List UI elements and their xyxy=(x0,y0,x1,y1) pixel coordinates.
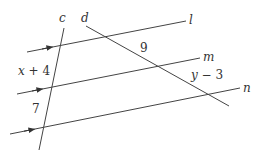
segment-label-y-minus-3: y − 3 xyxy=(190,68,223,82)
parallel-arrow-icon-n xyxy=(24,130,32,132)
segment-label-x-plus-4: x + 4 xyxy=(18,64,50,78)
line-n xyxy=(10,88,240,134)
segment-label-7: 7 xyxy=(32,102,40,116)
segment-label-9: 9 xyxy=(140,41,148,55)
label-n: n xyxy=(243,81,251,95)
diagram-canvas: c d l m n x + 4 7 9 y − 3 xyxy=(0,0,262,154)
label-d: d xyxy=(81,11,89,25)
label-m: m xyxy=(203,50,214,64)
line-l xyxy=(27,21,186,52)
label-c: c xyxy=(59,11,66,25)
transversal-d xyxy=(86,26,229,106)
label-l: l xyxy=(189,13,193,27)
